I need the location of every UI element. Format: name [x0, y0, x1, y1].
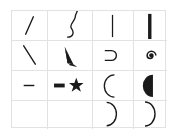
right-arc-icon [93, 101, 133, 129]
left-arc-icon [93, 71, 133, 100]
right-cup-icon [93, 41, 133, 70]
cell-r3-c2 [93, 101, 134, 129]
cell-r2-c3 [134, 71, 167, 101]
cell-r2-c2 [93, 71, 134, 101]
right-arc-icon [134, 101, 167, 129]
cell-r1-c2 [93, 41, 134, 71]
cell-r1-c3 [134, 41, 167, 71]
spiral-icon [134, 41, 167, 70]
cell-r1-c0 [12, 41, 48, 71]
cell-r2-c0 [12, 71, 48, 101]
diagonal-line-icon [12, 11, 47, 40]
cell-r3-c1 [48, 101, 93, 129]
cell-r1-c1 [48, 41, 93, 71]
thin-vertical-line-icon [93, 11, 133, 40]
cell-r0-c2 [93, 11, 134, 41]
half-circle-icon [134, 71, 167, 100]
cell-r0-c1 [48, 11, 93, 41]
cell-r2-c1 [48, 71, 93, 101]
cell-r3-c3 [134, 101, 167, 129]
glyph-grid [11, 10, 166, 128]
dash-star-icon [48, 71, 92, 100]
thick-vertical-bar-icon [134, 11, 167, 40]
cell-r0-c0 [12, 11, 48, 41]
filled-wedge-icon [48, 41, 92, 70]
cell-r0-c3 [134, 11, 167, 41]
short-dash-icon [12, 71, 47, 100]
wavy-curve-icon [48, 11, 92, 40]
cell-r3-c0 [12, 101, 48, 129]
diagonal-line-falling-icon [12, 41, 47, 70]
